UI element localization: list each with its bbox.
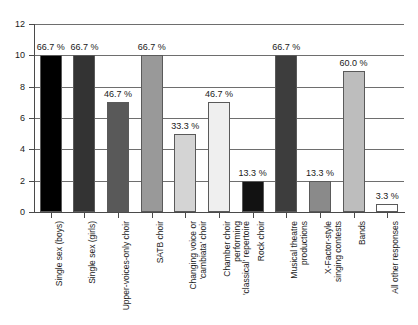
x-tick-label: Rock choir [257, 221, 267, 321]
bar-value-label: 13.3 % [228, 169, 278, 178]
bar [40, 55, 62, 212]
bar [242, 181, 264, 212]
y-tick-label: 6 [3, 114, 25, 123]
x-tick-mark [286, 213, 287, 218]
x-tick-label: X-Factor-style singing contests [324, 221, 343, 321]
x-tick-mark [320, 213, 321, 218]
y-tick-label: 4 [3, 145, 25, 154]
bar [309, 181, 331, 212]
x-tick-mark [185, 213, 186, 218]
bar-value-label: 66.7 % [261, 43, 311, 52]
y-tick-mark [29, 181, 34, 182]
gridline [34, 24, 404, 25]
y-tick-label: 2 [3, 177, 25, 186]
bar-value-label: 66.7 % [127, 43, 177, 52]
y-tick-mark [29, 55, 34, 56]
x-tick-mark [152, 213, 153, 218]
bar-value-label: 46.7 % [194, 90, 244, 99]
bar-value-label: 33.3 % [160, 122, 210, 131]
bar-value-label: 60.0 % [329, 59, 379, 68]
y-tick-label: 0 [3, 208, 25, 217]
bar [141, 55, 163, 212]
x-tick-mark [253, 213, 254, 218]
y-tick-mark [29, 212, 34, 213]
y-axis-line [34, 24, 35, 213]
y-tick-mark [29, 87, 34, 88]
bar [73, 55, 95, 212]
x-tick-label: Chamber choir performing 'classical' rep… [223, 221, 252, 321]
bar-chart: 024681012 Single sex (boys)Single sex (g… [0, 0, 418, 325]
x-tick-label: Bands [358, 221, 368, 321]
x-tick-mark [354, 213, 355, 218]
y-tick-label: 10 [3, 51, 25, 60]
x-tick-label: All other responses [391, 221, 401, 321]
x-tick-label: Single sex (boys) [55, 221, 65, 321]
bar [376, 204, 398, 212]
bar [275, 55, 297, 212]
bar-value-label: 3.3 % [362, 192, 412, 201]
y-tick-label: 12 [3, 20, 25, 29]
x-tick-mark [51, 213, 52, 218]
x-tick-mark [84, 213, 85, 218]
bar [208, 102, 230, 212]
x-tick-label: Musical theatre productions [290, 221, 309, 321]
bar [174, 134, 196, 212]
bar [107, 102, 129, 212]
y-tick-mark [29, 118, 34, 119]
x-tick-label: Changing voice or 'cambiata' choir [189, 221, 208, 321]
bar [343, 71, 365, 212]
x-tick-label: SATB choir [156, 221, 166, 321]
y-tick-mark [29, 24, 34, 25]
x-tick-mark [219, 213, 220, 218]
y-tick-mark [29, 149, 34, 150]
x-tick-label: Upper-voices-only choir [122, 221, 132, 321]
bar-value-label: 13.3 % [295, 169, 345, 178]
bar-value-label: 66.7 % [59, 43, 109, 52]
x-tick-mark [387, 213, 388, 218]
bar-value-label: 46.7 % [93, 90, 143, 99]
x-tick-label: Single sex (girls) [88, 221, 98, 321]
x-tick-mark [118, 213, 119, 218]
y-tick-label: 8 [3, 83, 25, 92]
